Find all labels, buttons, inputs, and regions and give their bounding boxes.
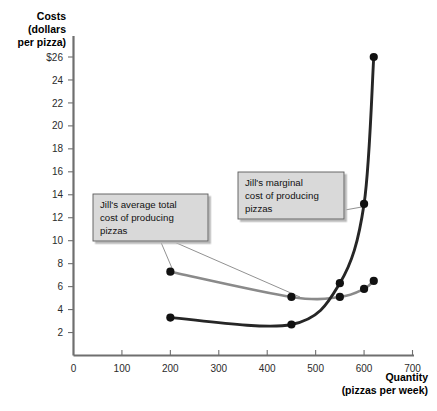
data-point — [287, 293, 295, 301]
atc-callout-line2: cost of producing — [100, 212, 174, 223]
x-axis-title-line1: Quantity — [385, 371, 428, 383]
annotation-atc: Jill's average total cost of producing p… — [93, 194, 208, 241]
y-tick-label: 6 — [57, 281, 63, 292]
x-tick-label: 400 — [259, 363, 276, 374]
y-tick-label: 12 — [52, 212, 64, 223]
x-tick-label: 100 — [114, 363, 131, 374]
data-point — [360, 200, 368, 208]
y-tick-label: 8 — [57, 258, 63, 269]
y-tick-label: 22 — [52, 98, 64, 109]
data-point — [370, 277, 378, 285]
atc-callout-line3: pizzas — [100, 225, 128, 236]
chart-canvas: 24681012141618202224$26 0100200300400500… — [0, 0, 437, 411]
mc-callout-line2: cost of producing — [245, 190, 319, 201]
data-point — [336, 293, 344, 301]
y-axis-title-line1: Costs — [37, 10, 66, 22]
y-axis-ticks: 24681012141618202224$26 — [46, 52, 74, 339]
data-point — [166, 314, 174, 322]
x-tick-label: 600 — [356, 363, 373, 374]
y-tick-label: 24 — [52, 75, 64, 86]
y-axis-title-line3: per pizza) — [18, 36, 66, 48]
y-tick-label: 10 — [52, 235, 64, 246]
x-tick-label: 300 — [210, 363, 227, 374]
y-axis-title-line2: (dollars — [28, 23, 66, 35]
leader-line — [172, 241, 300, 297]
y-tick-label: 20 — [52, 120, 64, 131]
x-tick-label: 200 — [162, 363, 179, 374]
y-axis-title: Costs (dollars per pizza) — [18, 10, 67, 48]
y-tick-label: 16 — [52, 166, 64, 177]
annotation-mc: Jill's marginal cost of producing pizzas — [238, 172, 344, 219]
data-point — [360, 285, 368, 293]
x-tick-label: 500 — [307, 363, 324, 374]
mc-callout-line1: Jill's marginal — [245, 177, 303, 188]
x-axis-ticks: 0100200300400500600700 — [71, 350, 422, 374]
cost-curves-chart: 24681012141618202224$26 0100200300400500… — [0, 0, 437, 411]
x-tick-label: 0 — [71, 363, 77, 374]
y-tick-label: $26 — [46, 52, 63, 63]
y-tick-label: 18 — [52, 143, 64, 154]
y-tick-label: 14 — [52, 189, 64, 200]
y-tick-label: 4 — [57, 304, 63, 315]
x-axis-title: Quantity (pizzas per week) — [342, 371, 429, 396]
data-point — [287, 320, 295, 328]
data-point — [336, 279, 344, 287]
y-tick-label: 2 — [57, 327, 63, 338]
mc-callout-line3: pizzas — [245, 203, 273, 214]
data-point — [166, 268, 174, 276]
x-axis-title-line2: (pizzas per week) — [342, 384, 428, 396]
atc-callout-line1: Jill's average total — [100, 199, 177, 210]
data-point — [370, 53, 378, 61]
